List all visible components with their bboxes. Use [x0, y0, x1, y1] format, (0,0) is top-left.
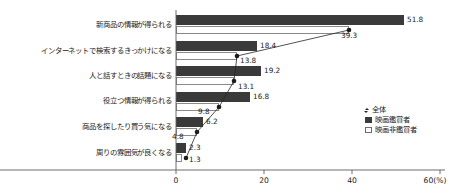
- legend-item-total: 全体: [365, 106, 386, 114]
- legend-item-nonviewer: 映画非鑑賞者: [365, 126, 417, 134]
- bar-filled-4: [176, 117, 203, 127]
- value-label-filled-5: 2.3: [189, 144, 201, 152]
- category-label-4: 商品を探したり買う気になる: [0, 123, 172, 131]
- diamond-marker-icon: [365, 106, 369, 110]
- category-label-3: 役立つ情報が得られる: [0, 97, 172, 105]
- legend-item-viewer: 映画鑑賞者: [365, 116, 410, 124]
- x-tick-label-3: 60(%): [420, 176, 450, 185]
- bar-filled-2: [176, 66, 261, 76]
- category-label-2: 人と話すときの話題になる: [0, 72, 172, 80]
- value-label-filled-2: 19.2: [264, 67, 280, 75]
- filled-square-swatch-icon: [365, 117, 372, 124]
- x-tick-label-2: 40: [342, 176, 362, 185]
- marker-point-5: [184, 156, 189, 161]
- value-label-hollow-5: 1.3: [189, 156, 201, 164]
- value-label-filled-1: 18.4: [260, 42, 276, 50]
- hollow-square-swatch-icon: [365, 127, 372, 134]
- value-label-filled-4: 6.2: [206, 118, 218, 126]
- x-tick-label-1: 20: [254, 176, 274, 185]
- bar-filled-1: [176, 41, 257, 51]
- bar-filled-0: [176, 15, 404, 25]
- bar-chart: 新商品の情報が得られる インターネットで検索するきっかけになる 人と話すときの話…: [0, 0, 451, 195]
- value-label-hollow-3: 9.8: [198, 108, 210, 116]
- category-label-0: 新商品の情報が得られる: [0, 21, 172, 29]
- bar-filled-3: [176, 92, 250, 102]
- legend-label-nonviewer: 映画非鑑賞者: [375, 126, 417, 134]
- bar-hollow-0: [176, 26, 349, 34]
- category-label-5: 周りの雰囲気が良くなる: [0, 149, 172, 157]
- bar-hollow-1: [176, 52, 237, 60]
- bar-hollow-2: [176, 77, 234, 85]
- value-label-hollow-0: 39.3: [341, 32, 357, 40]
- bar-filled-5: [176, 143, 186, 153]
- value-label-hollow-2: 13.1: [238, 83, 254, 91]
- value-label-filled-0: 51.8: [407, 16, 423, 24]
- bar-hollow-5: [176, 154, 182, 162]
- value-label-hollow-4: 4.8: [172, 133, 184, 141]
- legend-label-total: 全体: [372, 106, 386, 114]
- legend-label-viewer: 映画鑑賞者: [375, 116, 410, 124]
- value-label-hollow-1: 13.8: [240, 57, 256, 65]
- category-label-1: インターネットで検索するきっかけになる: [0, 47, 172, 55]
- value-label-filled-3: 16.8: [253, 93, 269, 101]
- x-tick-label-0: 0: [166, 176, 186, 185]
